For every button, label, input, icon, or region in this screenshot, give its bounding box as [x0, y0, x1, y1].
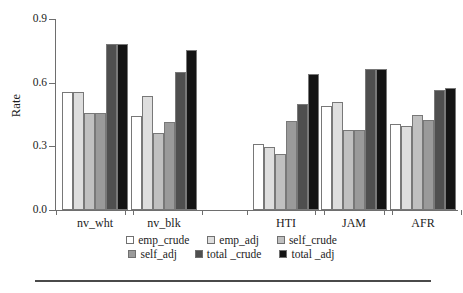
bar-nv_wht-total-adj — [117, 44, 128, 210]
legend-swatch-icon — [195, 250, 203, 258]
y-tick-mark — [49, 146, 55, 147]
bar-AFR-emp-crude — [390, 124, 401, 210]
bar-AFR-emp-adj — [401, 126, 412, 210]
legend-row: self_adjtotal _crudetotal _adj — [119, 248, 343, 260]
bar-nv_wht-total-crude — [106, 44, 117, 210]
bar-nv_blk-emp-adj — [142, 96, 153, 210]
legend-swatch-icon — [277, 236, 285, 244]
bar-HTI-total-adj — [308, 74, 319, 210]
chart-legend: emp_crudeemp_adjself_crudeself_adjtotal … — [0, 234, 463, 260]
bar-nv_blk-self-adj — [164, 122, 175, 210]
bar-HTI-total-crude — [297, 104, 308, 210]
x-label-nv_blk: nv_blk — [124, 216, 204, 231]
y-tick-mark — [49, 210, 55, 211]
bar-JAM-emp-adj — [332, 102, 343, 210]
y-tick-label: 0.3 — [0, 139, 47, 151]
x-tick-mark — [461, 210, 462, 215]
bar-AFR-self-crude — [412, 115, 423, 211]
x-tick-mark — [384, 210, 385, 215]
bar-JAM-self-adj — [354, 130, 365, 210]
x-label-nv_wht: nv_wht — [55, 216, 135, 231]
x-tick-mark — [125, 210, 126, 215]
bar-nv_blk-total-adj — [186, 50, 197, 210]
bar-HTI-self-crude — [275, 154, 286, 210]
x-label-AFR: AFR — [383, 216, 463, 231]
legend-row: emp_crudeemp_adjself_crude — [117, 234, 346, 246]
bar-JAM-emp-crude — [321, 106, 332, 210]
legend-swatch-icon — [207, 236, 215, 244]
legend-label: total _adj — [291, 248, 334, 260]
x-axis-line — [55, 210, 458, 211]
bar-JAM-self-crude — [343, 130, 354, 210]
bar-nv_blk-self-crude — [153, 133, 164, 210]
bar-JAM-total-adj — [376, 69, 387, 210]
bar-HTI-self-adj — [286, 121, 297, 210]
bar-nv_wht-emp-adj — [73, 92, 84, 210]
x-label-JAM: JAM — [314, 216, 394, 231]
y-tick-mark — [49, 19, 55, 20]
legend-item-emp-crude: emp_crude — [126, 234, 189, 246]
legend-item-self-adj: self_adj — [128, 248, 176, 260]
bar-nv_blk-total-crude — [175, 72, 186, 210]
bar-AFR-total-crude — [434, 90, 445, 210]
x-tick-mark — [202, 210, 203, 215]
x-tick-mark — [324, 210, 325, 215]
x-tick-mark — [247, 210, 248, 215]
legend-label: self_adj — [140, 248, 176, 260]
bar-nv_wht-self-adj — [95, 113, 106, 210]
bar-JAM-total-crude — [365, 69, 376, 210]
legend-swatch-icon — [279, 250, 287, 258]
bottom-rule — [35, 280, 431, 282]
bar-HTI-emp-crude — [253, 144, 264, 210]
bar-AFR-self-adj — [423, 120, 434, 210]
legend-swatch-icon — [126, 236, 134, 244]
y-tick-mark — [49, 83, 55, 84]
bar-HTI-emp-adj — [264, 147, 275, 210]
bar-nv_wht-self-crude — [84, 113, 95, 210]
bar-nv_wht-emp-crude — [62, 92, 73, 210]
legend-label: self_crude — [289, 234, 337, 246]
bar-chart-figure: Rate 0.00.30.60.9 nv_whtnv_blkHTIJAMAFR … — [0, 0, 463, 293]
legend-item-emp-adj: emp_adj — [207, 234, 259, 246]
x-tick-mark — [392, 210, 393, 215]
legend-label: emp_adj — [219, 234, 259, 246]
y-tick-label: 0.6 — [0, 76, 47, 88]
legend-item-self-crude: self_crude — [277, 234, 337, 246]
legend-item-total-crude: total _crude — [195, 248, 262, 260]
bar-AFR-total-adj — [445, 88, 456, 210]
y-tick-label: 0.9 — [0, 12, 47, 24]
legend-swatch-icon — [128, 250, 136, 258]
legend-item-total-adj: total _adj — [279, 248, 334, 260]
x-tick-mark — [56, 210, 57, 215]
y-tick-label: 0.0 — [0, 203, 47, 215]
legend-label: total _crude — [207, 248, 262, 260]
y-axis-line — [55, 19, 56, 211]
x-tick-mark — [315, 210, 316, 215]
bar-nv_blk-emp-crude — [131, 116, 142, 210]
legend-label: emp_crude — [138, 234, 189, 246]
x-tick-mark — [133, 210, 134, 215]
